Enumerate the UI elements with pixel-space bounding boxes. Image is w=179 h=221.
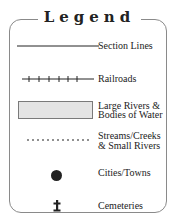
legend-label-cemeteries: Cemeteries [98, 201, 143, 211]
railroad-line-icon [22, 74, 94, 84]
cemetery-cross-icon [52, 199, 62, 212]
legend-label-large-rivers-2: Bodies of Water [98, 110, 163, 120]
legend-label-section-lines: Section Lines [98, 41, 153, 51]
legend-label-railroads: Railroads [98, 74, 136, 84]
city-dot-icon [51, 170, 62, 181]
legend-label-cities: Cities/Towns [98, 168, 151, 178]
legend-label-streams-2: & Small Rivers [98, 141, 160, 151]
water-body-icon [18, 101, 93, 119]
legend-title: Legend [0, 8, 179, 26]
dotted-line-icon [27, 138, 90, 142]
solid-line-icon [17, 44, 99, 48]
legend-title-text: Legend [38, 8, 142, 26]
